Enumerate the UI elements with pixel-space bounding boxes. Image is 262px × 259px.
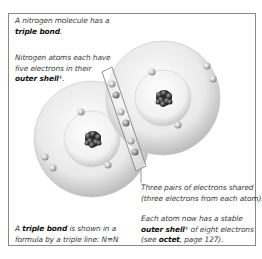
caption-text: formula by a triple line: N≡N xyxy=(15,235,118,244)
electron xyxy=(148,68,155,75)
caption-text: , page 127). xyxy=(180,235,224,244)
shared-electron xyxy=(122,119,129,126)
caption-text: . xyxy=(60,27,62,36)
term-triple-bond: triple bond xyxy=(15,27,60,36)
shared-electron xyxy=(127,137,134,144)
term-triple-bond: triple bond xyxy=(22,224,67,233)
caption-text: *. xyxy=(59,74,65,83)
electron xyxy=(104,161,111,168)
shared-electron xyxy=(131,148,138,155)
caption-shared: Three pairs of electrons shared (three e… xyxy=(141,183,262,204)
electron xyxy=(174,121,181,128)
electron xyxy=(203,62,210,69)
electron xyxy=(41,153,48,160)
electron xyxy=(49,164,56,171)
caption-text: * of eight electrons xyxy=(185,225,254,234)
caption-intro: A nitrogen molecule has a triple bond. xyxy=(15,16,109,37)
caption-text: Each atom now has a stable xyxy=(141,214,243,223)
electron xyxy=(209,75,216,82)
caption-stable: Each atom now has a stable outer shell* … xyxy=(141,214,254,246)
shared-electron xyxy=(117,108,124,115)
term-outer-shell: outer shell xyxy=(141,225,185,234)
caption-text: Nitrogen atoms each have xyxy=(15,53,111,62)
shared-electron xyxy=(112,91,119,98)
caption-text: five electrons in their xyxy=(15,64,92,73)
caption-text: (three electrons from each atom). xyxy=(141,194,262,203)
right-nitrogen-atom xyxy=(106,41,220,155)
term-octet: octet xyxy=(159,235,180,244)
caption-text: Three pairs of electrons shared xyxy=(141,183,253,192)
caption-outer-shell: Nitrogen atoms each have five electrons … xyxy=(15,53,111,85)
caption-text: (see xyxy=(141,235,159,244)
caption-text: A nitrogen molecule has a xyxy=(15,16,109,25)
caption-formula: A triple bond is shown in a formula by a… xyxy=(15,224,118,245)
term-outer-shell: outer shell xyxy=(15,74,59,83)
caption-text: is shown in a xyxy=(67,224,116,233)
electron xyxy=(77,108,84,115)
